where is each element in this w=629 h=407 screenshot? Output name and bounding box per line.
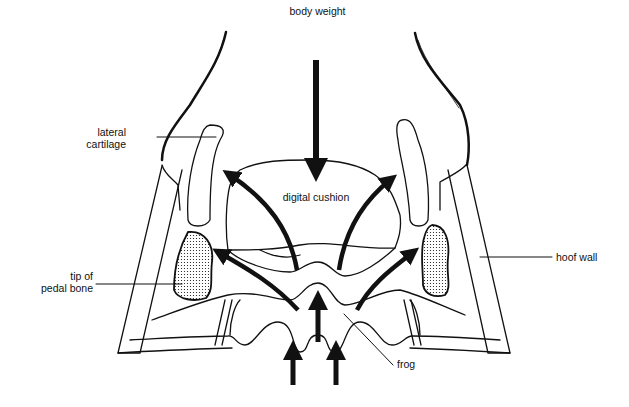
label-lateral-cartilage-line2: cartilage (80, 138, 126, 150)
right-hoof-wall (448, 165, 510, 353)
hoof-anatomy-diagram: body weight lateral cartilage digital cu… (0, 0, 629, 407)
diagram-drawing (0, 0, 629, 407)
left-lateral-cartilage (188, 125, 224, 226)
label-lateral-cartilage-line1: lateral (80, 126, 126, 138)
digital-cushion (226, 160, 400, 250)
label-body-weight: body weight (280, 5, 355, 17)
right-pedal-bone-tip (422, 225, 449, 296)
label-digital-cushion: digital cushion (275, 191, 357, 203)
left-skin-outline (162, 32, 226, 160)
label-hoof-wall: hoof wall (556, 251, 597, 263)
frog-outline (230, 300, 420, 335)
cushion-arrow-left-upper (230, 175, 297, 270)
label-tip-of-pedal-bone-line2: pedal bone (30, 282, 93, 294)
right-lateral-cartilage (397, 120, 429, 226)
left-pedal-bone-tip (174, 232, 212, 300)
label-frog: frog (397, 358, 415, 370)
label-tip-of-pedal-bone-line1: tip of (30, 270, 93, 282)
leader-frog (344, 314, 393, 365)
left-hoof-wall (118, 166, 182, 353)
